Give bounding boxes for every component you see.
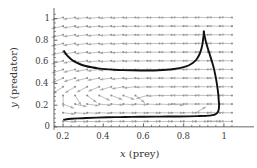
- y-tick-label: 0.8: [35, 35, 48, 45]
- y-axis-title-var: y: [8, 102, 19, 108]
- y-tick-label: 0.4: [35, 78, 48, 88]
- x-tick-label: 0.4: [96, 131, 109, 141]
- x-tick-label: 0.6: [136, 131, 149, 141]
- y-tick-label: 1: [44, 13, 49, 23]
- x-tick-label: 0.8: [177, 131, 190, 141]
- y-tick-label: 0: [44, 121, 49, 131]
- phase-portrait-figure: 0.20.40.60.81 00.20.40.60.81 x (prey) y …: [0, 0, 257, 168]
- y-axis-title: y (predator): [8, 47, 19, 108]
- y-axis-title-rest: (predator): [8, 47, 19, 99]
- x-axis-title-var: x: [120, 148, 126, 159]
- trajectory-curves: [64, 32, 219, 120]
- y-tick-label: 0.6: [35, 56, 48, 66]
- x-tick-label: 0.2: [56, 131, 69, 141]
- x-axis-title: x (prey): [120, 148, 159, 159]
- y-tick-label: 0.2: [35, 100, 48, 110]
- x-axis-title-rest: (prey): [129, 148, 160, 159]
- x-tick-label: 1: [222, 131, 227, 141]
